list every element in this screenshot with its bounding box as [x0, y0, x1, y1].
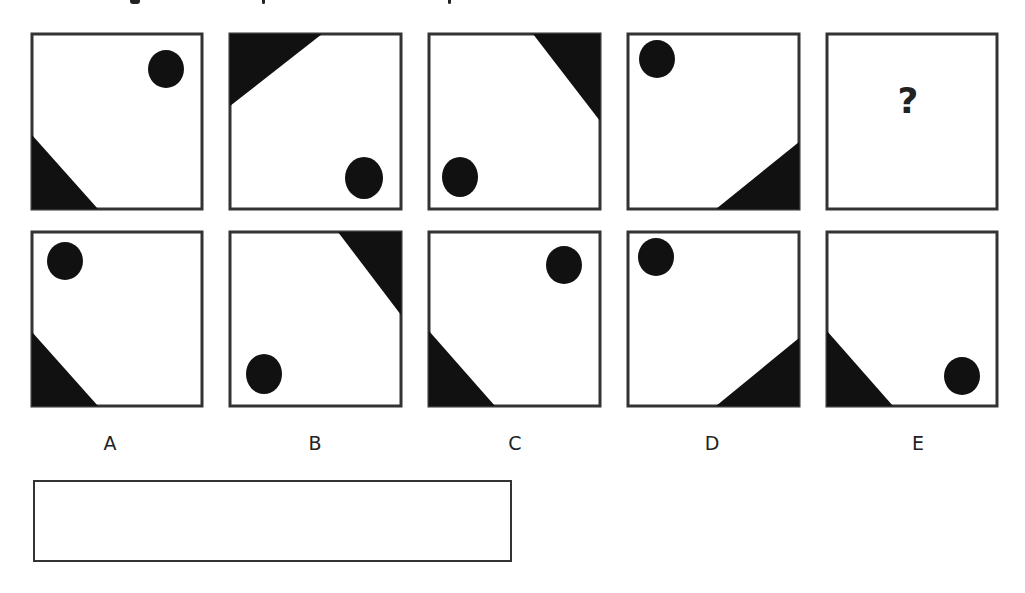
- sequence-panel-1: [32, 34, 202, 209]
- black-circle: [638, 238, 674, 276]
- sequence-panel-2: [230, 34, 401, 209]
- option-label-a: A: [90, 432, 130, 454]
- option-label-b: B: [295, 432, 335, 454]
- black-circle: [442, 157, 478, 197]
- black-circle: [148, 50, 184, 88]
- option-label-e: E: [898, 432, 938, 454]
- answer-input-box[interactable]: [33, 480, 512, 562]
- option-panel-b[interactable]: [230, 232, 401, 406]
- sequence-panel-3: [429, 34, 600, 209]
- question-mark: ?: [888, 80, 928, 121]
- option-label-d: D: [692, 432, 732, 454]
- option-panel-a[interactable]: [32, 232, 202, 406]
- black-circle: [546, 246, 582, 284]
- sequence-panel-4: [628, 34, 799, 209]
- sequence-panel-5-unknown: [827, 34, 997, 209]
- option-panel-e[interactable]: [827, 232, 997, 406]
- black-circle: [944, 357, 980, 395]
- option-panel-d[interactable]: [628, 232, 799, 406]
- black-circle: [246, 354, 282, 394]
- black-circle: [47, 242, 83, 280]
- black-circle: [639, 40, 675, 78]
- puzzle-grid: [0, 0, 1025, 420]
- option-panel-c[interactable]: [429, 232, 600, 406]
- black-circle: [345, 157, 383, 199]
- option-label-c: C: [495, 432, 535, 454]
